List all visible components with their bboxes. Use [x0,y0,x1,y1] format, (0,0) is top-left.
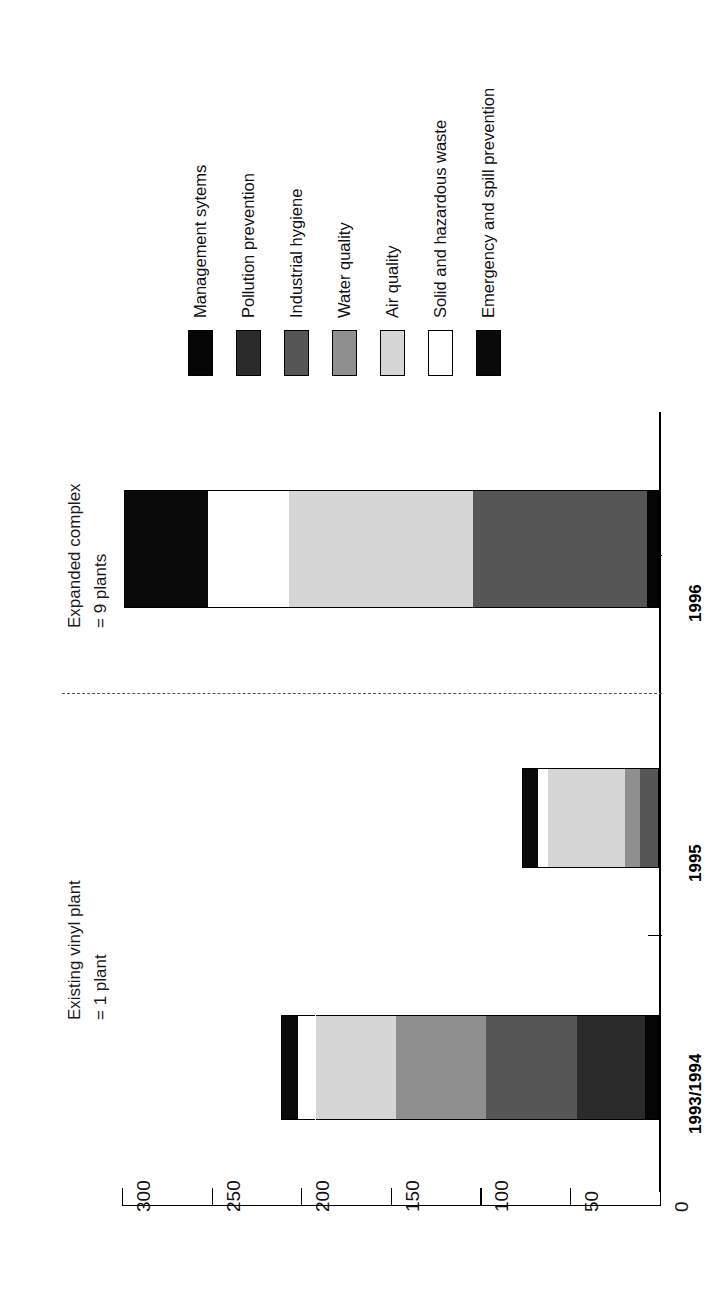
axis-tick-label: 0 [671,1142,693,1212]
legend-item-label: Air quality [380,18,404,318]
axis-tick-label: 50 [581,1142,603,1212]
axis-tick [660,1188,661,1206]
axis-tick-label: 200 [312,1142,334,1212]
category-label: 1993/1994 [684,1004,708,1134]
legend-item: Industrial hygiene [284,18,318,388]
bar-segment [396,1015,486,1120]
axis-tick-label: 300 [133,1142,155,1212]
chart-page: Findings addressed and resolved by Formo… [0,0,715,1301]
legend-item-label: Management sytems [188,18,212,318]
legend-swatch-icon [236,330,261,376]
bar-segment [640,768,660,868]
axis-tick [122,1188,123,1206]
bar-segment [298,1015,316,1120]
bar-segment [486,1015,577,1120]
bar-segment [577,1015,645,1120]
legend-swatch-icon [332,330,357,376]
chart-legend: Management sytemsPollution preventionInd… [188,18,698,388]
axis-tick-label: 250 [223,1142,245,1212]
legend-item: Emergency and spill prevention [476,18,510,388]
axis-tick [570,1188,571,1206]
axis-tick [391,1188,392,1206]
plot-area: 300250200150100500 1993/199419951996 Exp… [0,400,715,1301]
legend-swatch-icon [188,330,213,376]
annotation-existing-plant-detail: = 1 plant [88,700,114,1020]
legend-item-label: Industrial hygiene [284,18,308,318]
axis-tick-label: 150 [402,1142,424,1212]
legend-item: Air quality [380,18,414,388]
legend-item: Water quality [332,18,366,388]
legend-item-label: Solid and hazardous waste [428,18,452,318]
annotation-existing-plant: Existing vinyl plant [62,700,88,1020]
bar-segment [124,490,208,608]
legend-item: Management sytems [188,18,222,388]
legend-item: Solid and hazardous waste [428,18,462,388]
bar-segment [647,490,660,608]
legend-swatch-icon [380,330,405,376]
axis-tick [301,1188,302,1206]
bar-segment [625,768,639,868]
axis-tick-label: 100 [491,1142,513,1212]
bar-segment [208,490,289,608]
bar-segment [522,768,538,868]
legend-item-label: Water quality [332,18,356,318]
legend-item-label: Pollution prevention [236,18,260,318]
bar-segment [645,1015,659,1120]
annotation-expanded-complex: Expanded complex [62,308,88,628]
group-separator [62,693,662,694]
legend-item: Pollution prevention [236,18,270,388]
bar-segment [538,768,549,868]
bar-segment [289,490,474,608]
bar-segment [473,490,647,608]
annotation-expanded-complex-detail: = 9 plants [88,308,114,628]
category-label: 1996 [684,492,708,622]
bar-segment [548,768,625,868]
category-tick-lower [648,935,662,936]
legend-swatch-icon [428,330,453,376]
bar-segment [316,1015,397,1120]
legend-swatch-icon [476,330,501,376]
legend-item-label: Emergency and spill prevention [476,18,500,318]
category-label: 1995 [684,752,708,882]
stacked-bar [0,1015,715,1120]
axis-tick [480,1188,481,1206]
bar-segment [281,1015,297,1120]
legend-swatch-icon [284,330,309,376]
axis-tick [212,1188,213,1206]
